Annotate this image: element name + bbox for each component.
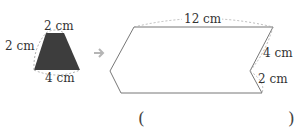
small-bottom-label: 4 cm xyxy=(45,71,75,85)
figure: 2 cm 2 cm 4 cm 12 cm 4 cm 2 cm ( ) xyxy=(0,0,301,135)
right-arrow-icon xyxy=(94,49,103,57)
large-shape: 12 cm 4 cm 2 cm xyxy=(110,12,293,93)
small-trapezoid: 2 cm 2 cm 4 cm xyxy=(5,19,80,85)
small-left-label: 2 cm xyxy=(5,39,35,53)
large-upper-right-label: 4 cm xyxy=(263,46,293,60)
large-lower-right-label: 2 cm xyxy=(258,72,288,86)
answer-close-paren: ) xyxy=(288,108,295,128)
large-top-label: 12 cm xyxy=(184,12,222,26)
answer-open-paren: ( xyxy=(138,108,145,128)
small-top-label: 2 cm xyxy=(44,19,74,33)
